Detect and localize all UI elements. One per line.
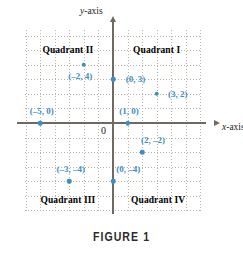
grid-line-vertical (157, 30, 158, 212)
point-coordinate-label: (0, –4) (116, 164, 140, 174)
quadrant-2-label: Quadrant II (42, 45, 93, 55)
point-coordinate-label: (–5, 0) (30, 106, 54, 116)
grid-line-vertical (84, 30, 85, 212)
point-coordinate-label: (–2, 4) (68, 71, 92, 81)
quadrant-4-label: Quadrant IV (131, 195, 185, 205)
point-coordinate-label: (–3, –4) (57, 164, 86, 174)
x-axis-label-suffix: -axis (226, 122, 243, 132)
grid-line-vertical (98, 30, 99, 212)
point-coordinate-label: (1, 0) (119, 106, 139, 116)
plotted-point (111, 77, 116, 82)
y-axis-arrow-icon (110, 16, 116, 22)
plotted-point (38, 121, 43, 126)
grid-line-vertical (55, 30, 56, 212)
point-coordinate-label: (2, –2) (141, 135, 165, 145)
quadrant-1-label: Quadrant I (133, 45, 180, 55)
point-coordinate-label: (0, 3) (126, 74, 146, 84)
y-axis-line (112, 22, 114, 214)
figure-caption: FIGURE 1 (15, 230, 229, 244)
grid-line-vertical (26, 30, 27, 212)
grid-line-vertical (69, 30, 70, 212)
grid-line-vertical (200, 30, 201, 212)
grid-line-vertical (171, 30, 172, 212)
quadrant-3-label: Quadrant III (40, 195, 95, 205)
y-axis-label-suffix: -axis (84, 6, 102, 16)
grid-line-vertical (142, 30, 143, 212)
grid-line-vertical (186, 30, 187, 212)
plotted-point (82, 63, 87, 68)
point-coordinate-label: (3, 2) (168, 89, 188, 99)
plotted-point (67, 179, 72, 184)
coordinate-plane-figure: (–2, 4)(0, 3)(3, 2)(–5, 0)(1, 0)(2, –2)(… (0, 0, 243, 255)
plotted-point (111, 179, 116, 184)
plotted-point (154, 92, 159, 97)
x-axis-arrow-icon (214, 120, 220, 126)
plotted-point (140, 150, 145, 155)
plotted-point (125, 121, 130, 126)
origin-label: 0 (101, 125, 106, 136)
x-axis-label: x-axis (222, 122, 243, 132)
plot-area: (–2, 4)(0, 3)(3, 2)(–5, 0)(1, 0)(2, –2)(… (25, 30, 200, 212)
y-axis-label: y-axis (80, 6, 103, 16)
